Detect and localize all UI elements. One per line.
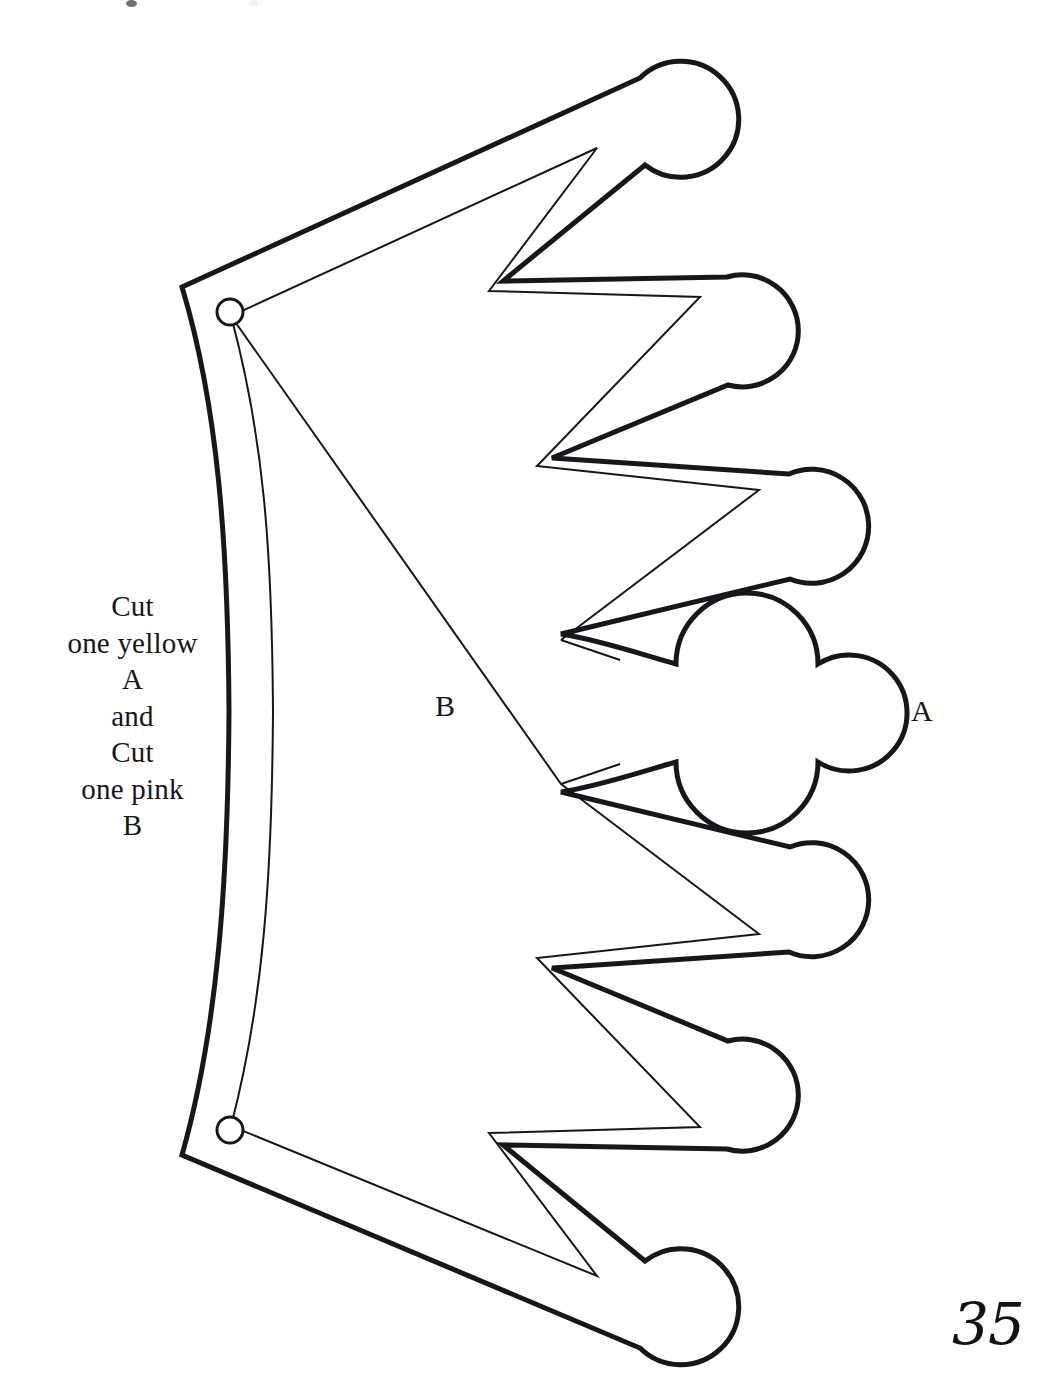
instruction-line: B (20, 807, 245, 844)
template-page: Cut one yellow A and Cut one pink B B A … (0, 0, 1043, 1375)
page-number: 35 (952, 1295, 1024, 1353)
instruction-line: A (20, 661, 245, 698)
piece-label-b: B (435, 691, 455, 721)
scan-speck (249, 0, 258, 6)
instruction-line: one pink (20, 771, 245, 808)
instruction-line: Cut (20, 734, 245, 771)
punch-hole-top (217, 299, 243, 325)
instruction-line: Cut (20, 588, 245, 625)
piece-label-a: A (911, 696, 933, 726)
instruction-line: one yellow (20, 625, 245, 662)
punch-hole-bottom (217, 1117, 243, 1143)
outer-crown-outline (182, 61, 907, 1364)
scan-speck (126, 0, 137, 7)
cut-instructions: Cut one yellow A and Cut one pink B (20, 588, 245, 844)
instruction-line: and (20, 698, 245, 735)
